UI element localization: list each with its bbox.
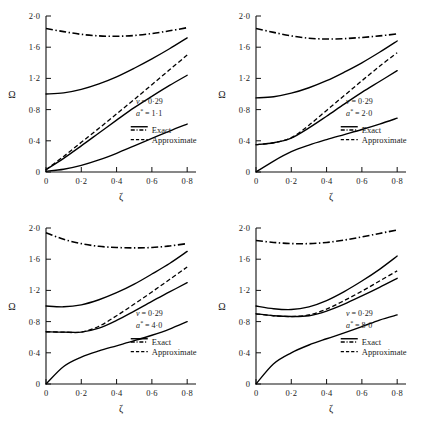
- chart-panel-1: 00·40·81·21·62·000·20·40·60·8ζΩv = 0·29a…: [0, 0, 210, 212]
- x-tick-label: 0·4: [321, 176, 333, 186]
- curve-dashed-2: [46, 55, 187, 170]
- x-axis-title: ζ: [119, 191, 123, 203]
- plot-area-panel-2: 00·40·81·21·62·000·20·40·60·8ζΩv = 0·29a…: [210, 0, 420, 212]
- plot-area-panel-3: 00·40·81·21·62·000·20·40·60·8ζΩv = 0·29a…: [0, 212, 210, 424]
- annotation-aspect-ratio: a* = 1·1: [136, 108, 162, 118]
- x-tick-label: 0: [44, 176, 48, 186]
- y-tick-label: 1·2: [29, 285, 40, 295]
- annotation-poisson-ratio: v = 0·29: [346, 97, 373, 106]
- curve-solid-1: [46, 251, 187, 306]
- x-tick-label: 0: [254, 388, 258, 398]
- y-tick-label: 0·8: [239, 105, 250, 115]
- curve-dash-dot-0: [46, 28, 187, 37]
- annotation-aspect-ratio: a* = 4·0: [136, 320, 162, 330]
- x-tick-label: 0·8: [392, 176, 403, 186]
- chart-panel-2: 00·40·81·21·62·000·20·40·60·8ζΩv = 0·29a…: [210, 0, 421, 212]
- legend-label-approximate: Approximate: [362, 135, 407, 145]
- y-tick-label: 0: [36, 167, 40, 177]
- y-tick-label: 2·0: [239, 223, 250, 233]
- y-tick-label: 0: [246, 167, 250, 177]
- y-tick-label: 1·2: [29, 73, 40, 83]
- chart-panel-4: 00·40·81·21·62·000·20·40·60·8ζΩv = 0·29a…: [210, 212, 421, 425]
- x-tick-label: 0: [44, 388, 48, 398]
- legend-label-approximate: Approximate: [152, 347, 197, 357]
- legend-label-exact: Exact: [362, 337, 382, 347]
- y-tick-label: 0: [36, 379, 40, 389]
- annotation-aspect-ratio: a* = 2·0: [346, 108, 372, 118]
- figure-container: 00·40·81·21·62·000·20·40·60·8ζΩv = 0·29a…: [0, 0, 421, 425]
- curve-dash-dot-0: [256, 28, 397, 39]
- annotation-poisson-ratio: v = 0·29: [136, 309, 163, 318]
- x-tick-label: 0·2: [76, 176, 87, 186]
- x-tick-label: 0·2: [286, 176, 297, 186]
- x-tick-label: 0·2: [286, 388, 297, 398]
- annotation-aspect-ratio: a* = 8·0: [346, 320, 372, 330]
- x-tick-label: 0·4: [321, 388, 333, 398]
- y-axis-title: Ω: [218, 301, 225, 312]
- y-tick-label: 0·8: [29, 105, 40, 115]
- axis-lines: [256, 16, 406, 172]
- y-tick-label: 0·4: [29, 348, 41, 358]
- x-axis-title: ζ: [329, 403, 333, 415]
- x-tick-label: 0: [254, 176, 258, 186]
- y-tick-label: 0·4: [239, 136, 251, 146]
- x-axis-title: ζ: [329, 191, 333, 203]
- y-tick-label: 2·0: [29, 223, 40, 233]
- curve-solid-3: [46, 75, 187, 169]
- x-tick-label: 0·8: [392, 388, 403, 398]
- y-tick-label: 0·4: [239, 348, 251, 358]
- legend-label-approximate: Approximate: [362, 347, 407, 357]
- axis-lines: [46, 16, 196, 172]
- x-tick-label: 0·8: [182, 388, 193, 398]
- y-tick-label: 1·6: [239, 42, 250, 52]
- x-tick-label: 0·4: [111, 176, 123, 186]
- y-tick-label: 0·8: [29, 317, 40, 327]
- x-tick-label: 0·8: [182, 176, 193, 186]
- legend-label-approximate: Approximate: [152, 135, 197, 145]
- curve-dash-dot-0: [256, 230, 397, 244]
- y-tick-label: 2·0: [239, 11, 250, 21]
- x-tick-label: 0·2: [76, 388, 87, 398]
- curve-solid-1: [256, 256, 397, 310]
- chart-panel-3: 00·40·81·21·62·000·20·40·60·8ζΩv = 0·29a…: [0, 212, 210, 425]
- y-tick-label: 0·8: [239, 317, 250, 327]
- annotation-poisson-ratio: v = 0·29: [136, 97, 163, 106]
- plot-area-panel-4: 00·40·81·21·62·000·20·40·60·8ζΩv = 0·29a…: [210, 212, 420, 424]
- x-tick-label: 0·6: [356, 176, 367, 186]
- y-tick-label: 2·0: [29, 11, 40, 21]
- curve-dash-dot-0: [46, 233, 187, 248]
- y-axis-title: Ω: [8, 89, 15, 100]
- y-tick-label: 1·6: [239, 254, 250, 264]
- x-tick-label: 0·6: [356, 388, 367, 398]
- legend-label-exact: Exact: [152, 125, 172, 135]
- legend-label-exact: Exact: [152, 337, 172, 347]
- x-tick-label: 0·6: [146, 388, 157, 398]
- x-tick-label: 0·4: [111, 388, 123, 398]
- curve-solid-1: [46, 38, 187, 94]
- annotation-poisson-ratio: v = 0·29: [346, 309, 373, 318]
- y-tick-label: 0: [246, 379, 250, 389]
- legend-label-exact: Exact: [362, 125, 382, 135]
- curve-solid-3: [256, 278, 397, 316]
- y-tick-label: 1·6: [29, 42, 40, 52]
- plot-area-panel-1: 00·40·81·21·62·000·20·40·60·8ζΩv = 0·29a…: [0, 0, 210, 212]
- curve-solid-3: [46, 283, 187, 333]
- y-tick-label: 1·6: [29, 254, 40, 264]
- y-tick-label: 0·4: [29, 136, 41, 146]
- y-axis-title: Ω: [218, 89, 225, 100]
- y-tick-label: 1·2: [239, 285, 250, 295]
- x-tick-label: 0·6: [146, 176, 157, 186]
- curve-dashed-2: [46, 267, 187, 333]
- x-axis-title: ζ: [119, 403, 123, 415]
- y-tick-label: 1·2: [239, 73, 250, 83]
- y-axis-title: Ω: [8, 301, 15, 312]
